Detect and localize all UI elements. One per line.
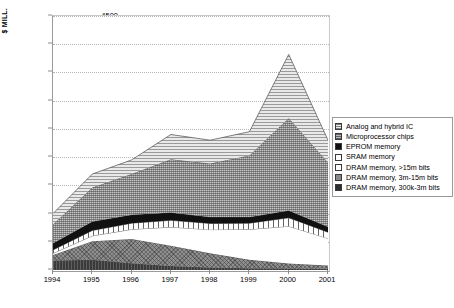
legend-item-label: EPROM memory bbox=[346, 143, 400, 150]
legend-item[interactable]: Microprocessor chips bbox=[335, 131, 449, 141]
x-axis-tick-label: 2000 bbox=[279, 275, 296, 284]
legend-item-label: DRAM memory, 3m-15m bits bbox=[346, 174, 438, 181]
legend-item-label: DRAM memory, 300k-3m bits bbox=[346, 184, 440, 191]
legend: Analog and hybrid ICMicroprocessor chips… bbox=[332, 117, 453, 197]
legend-swatch-icon bbox=[335, 123, 342, 130]
legend-swatch-icon bbox=[335, 143, 342, 150]
x-axis-tick-label: 1994 bbox=[44, 275, 61, 284]
plot-area bbox=[52, 15, 330, 272]
x-axis-tick-mark bbox=[170, 270, 171, 274]
x-axis-tick-mark bbox=[52, 270, 53, 274]
series-layers bbox=[53, 16, 328, 270]
y-axis-title: $ MILL. bbox=[1, 8, 8, 34]
x-axis-tick-label: 1997 bbox=[162, 275, 179, 284]
x-axis-tick-label: 1996 bbox=[122, 275, 139, 284]
x-axis-tick-label: 1995 bbox=[83, 275, 100, 284]
x-axis-tick-mark bbox=[131, 270, 132, 274]
legend-item-label: Microprocessor chips bbox=[346, 133, 414, 140]
legend-item[interactable]: DRAM memory, 3m-15m bits bbox=[335, 172, 449, 182]
x-axis-tick-label: 1999 bbox=[240, 275, 257, 284]
plot-inner bbox=[53, 16, 329, 271]
legend-swatch-icon bbox=[335, 184, 342, 191]
x-axis-tick-mark bbox=[327, 270, 328, 274]
x-axis-tick-label: 2001 bbox=[319, 275, 336, 284]
legend-swatch-icon bbox=[335, 133, 342, 140]
legend-item[interactable]: Analog and hybrid IC bbox=[335, 121, 449, 131]
legend-swatch-icon bbox=[335, 174, 342, 181]
legend-swatch-icon bbox=[335, 154, 342, 161]
legend-item-label: SRAM memory bbox=[346, 153, 395, 160]
x-axis-tick-label: 1998 bbox=[201, 275, 218, 284]
legend-item[interactable]: DRAM memory, >15m bits bbox=[335, 162, 449, 172]
legend-item-label: Analog and hybrid IC bbox=[346, 123, 413, 130]
x-axis-tick-mark bbox=[209, 270, 210, 274]
x-axis-tick-mark bbox=[288, 270, 289, 274]
legend-item[interactable]: DRAM memory, 300k-3m bits bbox=[335, 183, 449, 193]
legend-item-label: DRAM memory, >15m bits bbox=[346, 164, 430, 171]
legend-item[interactable]: EPROM memory bbox=[335, 142, 449, 152]
legend-item[interactable]: SRAM memory bbox=[335, 152, 449, 162]
stacked-area-chart: $ MILL. 05001000150020002500300035004000… bbox=[0, 0, 454, 308]
legend-swatch-icon bbox=[335, 164, 342, 171]
x-axis-tick-mark bbox=[91, 270, 92, 274]
x-axis-tick-mark bbox=[248, 270, 249, 274]
